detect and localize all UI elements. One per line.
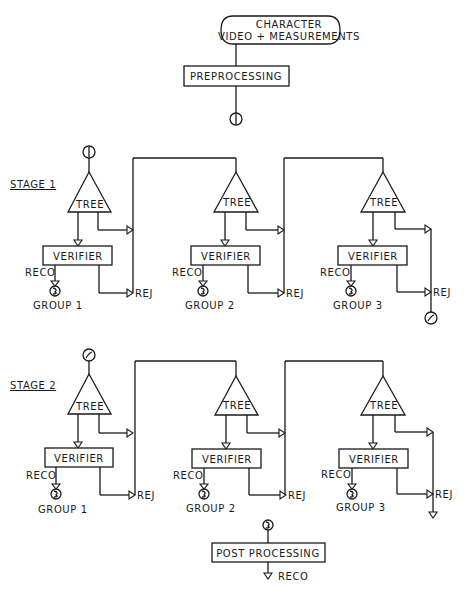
verifier-label: VERIFIER (348, 251, 398, 262)
arrow-down-icon (199, 281, 207, 286)
tree-label: TREE (369, 197, 398, 208)
rej-label: REJ (135, 288, 153, 299)
arrow-right-icon (425, 225, 431, 233)
tree-label: TREE (75, 401, 104, 412)
reco-label: RECO (321, 469, 352, 480)
stage-2-group-1: TREE VERIFIER RECO GROUP 1 REJ (26, 374, 155, 515)
arrow-down-icon (347, 281, 355, 286)
arrow-down-icon (74, 442, 82, 448)
post-processing-label: POST PROCESSING (216, 548, 320, 559)
connector-3-in (263, 520, 273, 530)
arrow-right-icon (129, 491, 135, 499)
arrow-right-icon (278, 289, 284, 297)
arrow-down-icon (429, 512, 437, 518)
preprocessing-label: PREPROCESSING (190, 71, 282, 82)
arrow-right-icon (425, 288, 431, 296)
connector-1-out (230, 113, 242, 125)
stage-1-label: STAGE 1 (10, 179, 56, 190)
arrow-down-icon (369, 240, 377, 246)
group-label: GROUP 3 (333, 300, 383, 311)
arrow-down-icon (222, 443, 230, 449)
connector-2-in (83, 349, 95, 361)
reco-label: RECO (25, 267, 56, 278)
arrow-down-icon (74, 240, 82, 246)
arrow-right-icon (427, 428, 433, 436)
tree-label: TREE (222, 197, 251, 208)
flowchart-diagram: CHARACTER VIDEO + MEASUREMENTS PREPROCES… (0, 0, 468, 599)
tree-label: TREE (222, 400, 251, 411)
start-terminal: CHARACTER VIDEO + MEASUREMENTS (218, 16, 360, 44)
verifier-label: VERIFIER (349, 454, 399, 465)
arrow-right-icon (279, 429, 285, 437)
arrow-right-icon (127, 289, 133, 297)
arrow-right-icon (127, 429, 133, 437)
group-label: GROUP 3 (336, 502, 386, 513)
tree-label: TREE (369, 400, 398, 411)
stage-2-label: STAGE 2 (10, 380, 56, 391)
arrow-down-icon (200, 484, 208, 489)
connector-1-in (83, 146, 95, 158)
arrow-down-icon (348, 484, 356, 489)
reco-label: RECO (26, 470, 57, 481)
rej-label: REJ (433, 287, 451, 298)
arrow-down-icon (51, 281, 59, 286)
connector-2-out (425, 312, 437, 324)
arrow-right-icon (278, 226, 284, 234)
preprocessing-box: PREPROCESSING (184, 66, 289, 86)
stage-1: STAGE 1 TREE VERIFIER RECO GROUP 1 (10, 146, 451, 324)
arrow-down-icon (369, 443, 377, 449)
rej-label: REJ (286, 288, 304, 299)
post-processing-section: POST PROCESSING RECO (212, 520, 325, 582)
stage-2: STAGE 2 TREE VERIFIER RECO GROUP 1 (10, 349, 453, 518)
final-reco-label: RECO (278, 571, 309, 582)
rej-label: REJ (435, 489, 453, 500)
arrow-down-icon (264, 573, 272, 579)
group-label: GROUP 2 (186, 503, 236, 514)
verifier-label: VERIFIER (54, 453, 104, 464)
verifier-label: VERIFIER (201, 251, 251, 262)
reco-label: RECO (320, 267, 351, 278)
tree-label: TREE (75, 199, 104, 210)
group-label: GROUP 1 (33, 300, 83, 311)
stage-1-group-1: TREE VERIFIER RECO GROUP 1 REJ (25, 172, 153, 311)
arrow-down-icon (221, 240, 229, 246)
verifier-label: VERIFIER (53, 251, 103, 262)
group-label: GROUP 1 (38, 504, 88, 515)
arrow-down-icon (52, 484, 60, 489)
reco-label: RECO (173, 470, 204, 481)
arrow-right-icon (427, 490, 433, 498)
group-label: GROUP 2 (185, 300, 235, 311)
reco-label: RECO (172, 267, 203, 278)
arrow-right-icon (127, 226, 133, 234)
start-label-line1: CHARACTER (256, 19, 322, 30)
rej-label: REJ (137, 490, 155, 501)
start-label-line2: VIDEO + MEASUREMENTS (218, 31, 360, 42)
verifier-label: VERIFIER (202, 454, 252, 465)
stage-2-group-2: TREE VERIFIER RECO GROUP 2 REJ (173, 376, 306, 514)
rej-label: REJ (288, 490, 306, 501)
